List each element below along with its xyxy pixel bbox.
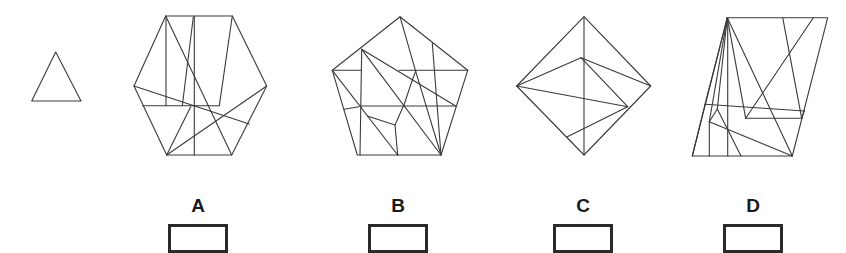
answer-box-a[interactable]: [168, 224, 228, 253]
inner-line: [727, 18, 792, 156]
option-label-b: B: [378, 196, 418, 216]
option-label-a: A: [178, 196, 218, 216]
inner-line: [717, 109, 741, 156]
triangle-outline: [32, 52, 81, 101]
answer-box-d[interactable]: [723, 224, 783, 253]
inner-line: [167, 86, 267, 155]
option-d-figure: [692, 18, 827, 156]
inner-line: [134, 86, 249, 124]
inner-line: [360, 49, 362, 155]
inner-line: [727, 18, 745, 119]
inner-line: [581, 58, 651, 86]
option-label-c: C: [563, 196, 603, 216]
inner-line: [395, 71, 416, 155]
option-c-figure: [517, 17, 651, 155]
target-triangle: [32, 52, 81, 101]
inner-line: [717, 18, 727, 109]
inner-line: [167, 107, 191, 155]
inner-line: [344, 107, 359, 110]
inner-line: [400, 17, 416, 72]
hexagon-outline: [134, 16, 267, 155]
option-b-figure: [332, 17, 467, 155]
inner-line: [567, 107, 627, 137]
inner-line: [783, 18, 802, 119]
option-label-d: D: [733, 196, 773, 216]
inner-line: [709, 122, 792, 156]
inner-line: [332, 70, 397, 155]
inner-line: [362, 49, 441, 155]
option-a-figure: [134, 16, 267, 155]
inner-line: [692, 104, 705, 156]
inner-line: [432, 43, 441, 155]
inner-line: [517, 58, 581, 86]
answer-box-b[interactable]: [368, 224, 428, 253]
inner-line: [705, 18, 727, 105]
pentagon-outline: [332, 17, 467, 155]
answer-box-c[interactable]: [553, 224, 613, 253]
inner-line: [362, 49, 456, 106]
inner-line: [746, 18, 814, 119]
inner-line: [219, 16, 232, 106]
